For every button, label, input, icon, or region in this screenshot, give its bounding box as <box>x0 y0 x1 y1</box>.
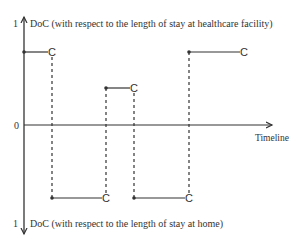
bottom-axis-title: DoC (with respect to the length of stay … <box>30 218 223 230</box>
bottom-tick-label: 1 <box>13 218 18 229</box>
doc-timeline-diagram: 1 0 1 DoC (with respect to the length of… <box>0 0 303 248</box>
c-marker-5: C <box>240 46 248 58</box>
top-tick-label: 1 <box>13 18 18 29</box>
top-axis-title: DoC (with respect to the length of stay … <box>30 18 273 30</box>
c-marker-1: C <box>48 46 56 58</box>
zero-tick-label: 0 <box>14 120 19 131</box>
c-marker-3: C <box>130 82 138 94</box>
c-marker-4: C <box>185 192 193 204</box>
x-axis-title: Timeline <box>255 133 289 143</box>
c-marker-2: C <box>102 192 110 204</box>
